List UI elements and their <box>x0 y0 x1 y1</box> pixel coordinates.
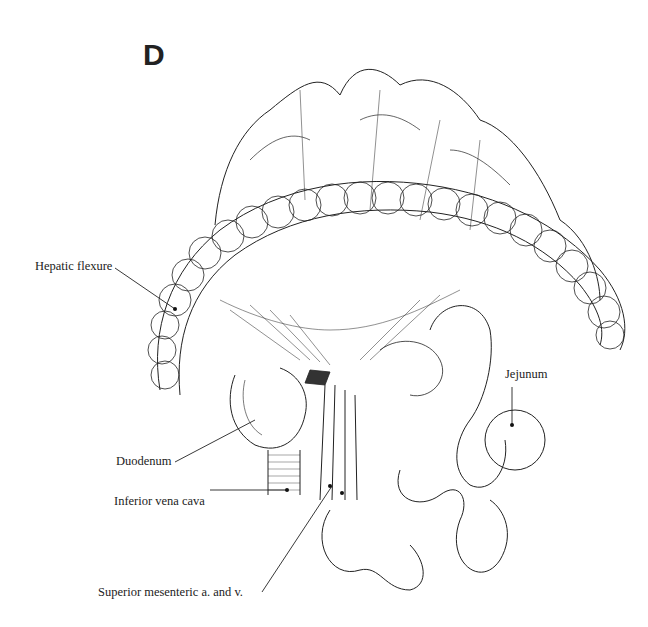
superior-mesenteric-vessels <box>305 370 357 500</box>
label-inferior-vena-cava: Inferior vena cava <box>114 494 205 509</box>
jejunum <box>322 306 545 590</box>
inferior-vena-cava <box>268 450 300 495</box>
greater-omentum <box>215 69 600 300</box>
transverse-colon <box>148 181 625 395</box>
illustration <box>0 0 648 627</box>
transverse-mesocolon <box>220 290 460 365</box>
anatomical-figure: D <box>0 0 648 627</box>
label-jejunum: Jejunum <box>505 367 547 382</box>
leader-dots <box>173 307 514 495</box>
duodenum <box>230 368 306 448</box>
label-superior-mesenteric: Superior mesenteric a. and v. <box>98 585 243 600</box>
leader-lines <box>115 268 512 592</box>
label-duodenum: Duodenum <box>116 454 172 469</box>
label-hepatic-flexure: Hepatic flexure <box>35 259 112 274</box>
